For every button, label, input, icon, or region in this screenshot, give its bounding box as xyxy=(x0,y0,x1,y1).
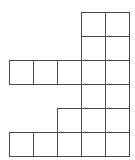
grid-cell xyxy=(105,60,130,85)
grid-cell xyxy=(9,132,34,157)
grid-cell xyxy=(105,132,130,157)
grid-cell xyxy=(81,36,106,61)
grid-cell xyxy=(81,12,106,37)
grid-cell xyxy=(81,132,106,157)
grid-cell xyxy=(105,36,130,61)
grid-cell xyxy=(57,132,82,157)
grid-cell xyxy=(9,60,34,85)
grid-cell xyxy=(33,60,58,85)
grid-cell xyxy=(81,108,106,133)
grid-diagram xyxy=(0,0,135,160)
grid-cell xyxy=(105,84,130,109)
grid-cell xyxy=(105,12,130,37)
grid-cell xyxy=(57,108,82,133)
grid-cell xyxy=(81,84,106,109)
grid-cell xyxy=(57,60,82,85)
grid-cell xyxy=(105,108,130,133)
grid-cell xyxy=(33,132,58,157)
grid-cell xyxy=(81,60,106,85)
